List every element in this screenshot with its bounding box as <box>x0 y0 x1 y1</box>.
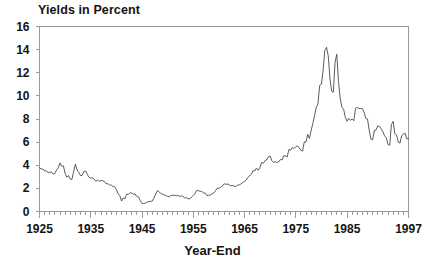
y-tick-label: 0 <box>4 206 30 218</box>
tick-marks-group <box>36 27 409 218</box>
x-tick-label: 1935 <box>77 223 104 235</box>
y-tick-label: 6 <box>4 136 30 148</box>
y-tick-label: 12 <box>4 67 30 79</box>
y-tick-label: 4 <box>4 159 30 171</box>
x-axis-title: Year-End <box>0 243 437 258</box>
yield-series-line <box>40 47 409 203</box>
x-tick-label: 1997 <box>395 223 422 235</box>
x-tick-label: 1985 <box>334 223 361 235</box>
x-tick-label: 1955 <box>180 223 207 235</box>
x-tick-label: 1965 <box>231 223 258 235</box>
chart-figure: Yields in Percent 0246810121416 19251935… <box>0 0 437 271</box>
y-tick-label: 8 <box>4 113 30 125</box>
y-tick-label: 14 <box>4 44 30 56</box>
x-tick-label: 1945 <box>129 223 156 235</box>
x-tick-label: 1975 <box>282 223 309 235</box>
x-axis-title-text: Year-End <box>184 243 240 258</box>
y-tick-label: 2 <box>4 182 30 194</box>
y-tick-label: 16 <box>4 21 30 33</box>
y-tick-label: 10 <box>4 90 30 102</box>
x-tick-label: 1925 <box>26 223 53 235</box>
plot-canvas <box>0 0 437 271</box>
